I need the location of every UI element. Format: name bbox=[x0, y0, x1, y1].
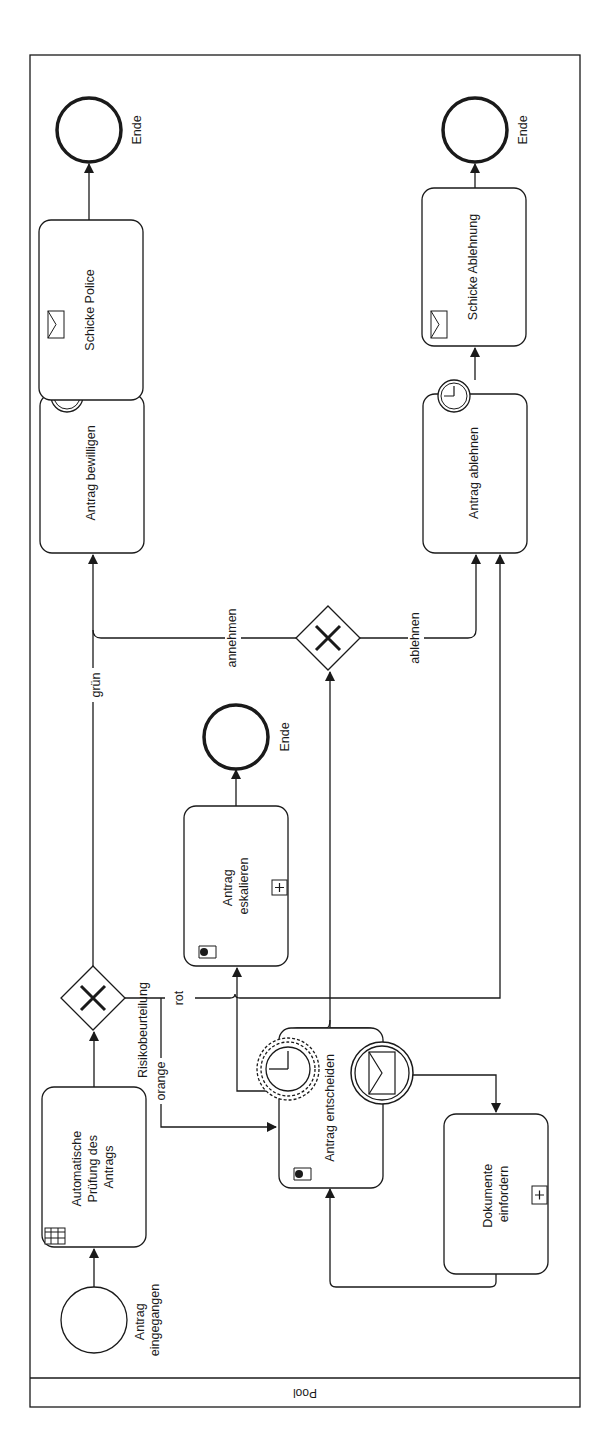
end-event-ablehnung-label: Ende bbox=[516, 115, 530, 144]
task-label: Antrag bewilligen bbox=[84, 425, 98, 520]
business-rule-icon bbox=[45, 1228, 65, 1244]
flow-label-gruen: grün bbox=[89, 672, 103, 697]
task-label: Antrag entscheiden bbox=[323, 1054, 337, 1162]
task-label: Schicke Police bbox=[83, 269, 97, 350]
end-event-eskalation-label: Ende bbox=[278, 722, 292, 751]
task-antrag-eskalieren[interactable]: Antrag eskalieren bbox=[184, 806, 288, 966]
bpmn-diagram: Pool grün rot orange Risikobeurteilung a… bbox=[0, 0, 608, 1437]
start-event[interactable] bbox=[61, 1287, 127, 1353]
envelope-icon bbox=[369, 1052, 395, 1094]
pool-label: Pool bbox=[293, 1386, 317, 1400]
task-dokumente-einfordern[interactable]: Dokumente einfordern bbox=[444, 1114, 548, 1274]
flow-label-ablehnen: ablehnen bbox=[408, 612, 422, 663]
subprocess-marker-icon bbox=[532, 1186, 547, 1204]
timer-boundary-event-entscheiden[interactable] bbox=[257, 1038, 319, 1100]
user-icon bbox=[199, 946, 216, 958]
flow-label-annehmen: annehmen bbox=[225, 608, 239, 667]
envelope-icon bbox=[431, 311, 447, 338]
end-event-police-label: Ende bbox=[130, 115, 144, 144]
task-antrag-ablehnen[interactable]: Antrag ablehnen bbox=[423, 394, 527, 553]
task-antrag-bewilligen[interactable]: Antrag bewilligen bbox=[40, 394, 144, 553]
message-boundary-event-entscheiden[interactable] bbox=[351, 1042, 413, 1104]
subprocess-marker-icon bbox=[272, 880, 287, 895]
end-event-eskalation[interactable] bbox=[204, 705, 268, 769]
envelope-icon bbox=[48, 311, 64, 338]
task-automatische-pruefung[interactable]: Automatische Prüfung des Antrags bbox=[42, 1087, 146, 1247]
user-icon bbox=[294, 1168, 311, 1180]
timer-boundary-event-ablehnen[interactable] bbox=[438, 380, 470, 412]
gateway-risiko-label: Risikobeurteilung bbox=[136, 982, 150, 1078]
flow-label-orange: orange bbox=[154, 1061, 168, 1100]
flow-label-rot: rot bbox=[172, 990, 186, 1005]
end-event-ablehnung[interactable] bbox=[443, 98, 507, 162]
end-event-police[interactable] bbox=[57, 98, 121, 162]
task-schicke-ablehnung[interactable]: Schicke Ablehnung bbox=[422, 188, 526, 346]
task-schicke-police[interactable]: Schicke Police bbox=[39, 220, 143, 400]
task-label: Antrag ablehnen bbox=[467, 427, 481, 519]
task-label: Schicke Ablehnung bbox=[466, 214, 480, 320]
